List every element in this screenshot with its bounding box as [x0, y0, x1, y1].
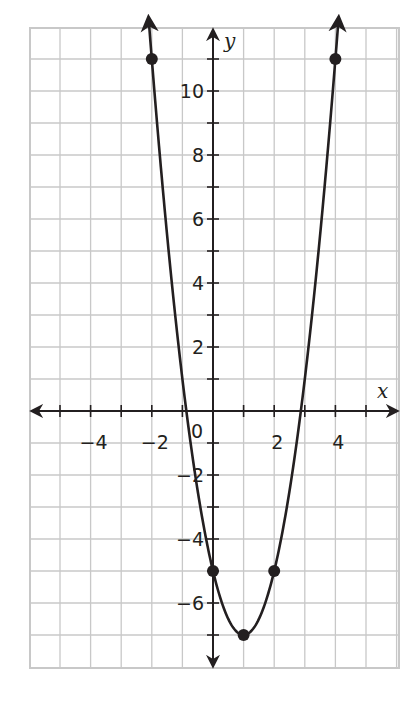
x-tick-label: −4 — [80, 431, 108, 453]
x-tick-label: −2 — [141, 431, 169, 453]
y-tick-label: 10 — [180, 80, 204, 102]
coordinate-plane: −4−2024−6−4−2246810xy — [0, 0, 412, 709]
y-tick-label: −2 — [176, 464, 204, 486]
y-tick-label: 2 — [192, 336, 204, 358]
x-tick-label: 2 — [271, 431, 283, 453]
y-tick-label: 8 — [192, 144, 204, 166]
x-tick-label: 4 — [332, 431, 344, 453]
y-tick-label: 6 — [192, 208, 204, 230]
y-tick-label: −4 — [176, 528, 204, 550]
origin-label: 0 — [191, 420, 203, 442]
data-point — [329, 53, 341, 65]
data-point — [238, 629, 250, 641]
y-tick-label: 4 — [192, 272, 204, 294]
y-tick-label: −6 — [176, 592, 204, 614]
data-point — [268, 565, 280, 577]
data-point — [146, 53, 158, 65]
data-point — [207, 565, 219, 577]
y-axis-title: y — [223, 29, 236, 53]
x-axis-title: x — [377, 379, 388, 403]
